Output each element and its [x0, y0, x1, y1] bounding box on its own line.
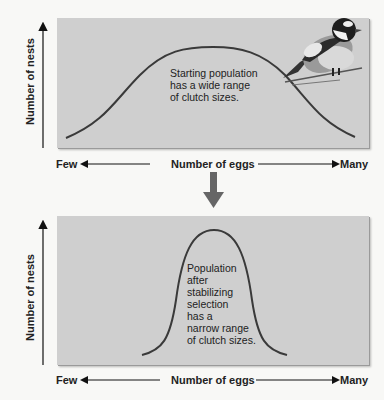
bottom-annotation: Population after stabilizing selection h… [187, 262, 256, 346]
top-x-axis-label: Number of eggs [171, 158, 255, 170]
bottom-x-axis-label: Number of eggs [171, 374, 255, 386]
top-x-right-label: Many [340, 158, 368, 170]
bottom-x-left-label: Few [56, 374, 77, 386]
bird-icon [283, 18, 362, 85]
bottom-y-axis-label: Number of nests [24, 254, 36, 341]
top-x-left-label: Few [56, 158, 77, 170]
down-arrow-icon [203, 172, 224, 208]
top-y-axis-label: Number of nests [24, 38, 36, 125]
top-annotation: Starting population has a wide range of … [170, 67, 258, 103]
bottom-x-right-label: Many [340, 374, 368, 386]
